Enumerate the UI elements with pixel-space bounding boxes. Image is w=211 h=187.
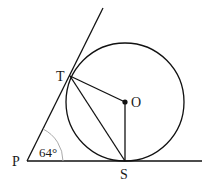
angle-label: 64° [39,145,57,160]
tangent-line-pt [27,8,103,161]
label-p: P [12,154,20,169]
label-t: T [56,69,65,84]
label-s: S [120,167,128,182]
geometry-diagram: T O P S 64° [0,0,211,187]
center-dot-o [122,99,127,104]
label-o: O [131,95,141,110]
